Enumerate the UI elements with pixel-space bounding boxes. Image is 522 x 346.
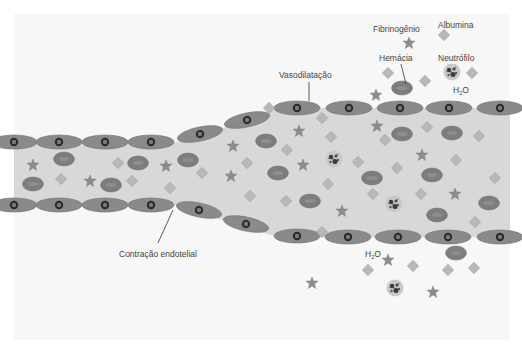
label-fibrinogen: Fibrinogênio [373,24,420,34]
vessel-diagram: Fibrinogênio Albumina Hemácia Neutrófilo… [0,0,522,346]
label-endothelial-contraction: Contração endotelial [119,249,197,259]
label-red-cell: Hemácia [379,53,413,63]
label-neutrophil: Neutrófilo [438,53,475,63]
diagram-canvas: Fibrinogênio Albumina Hemácia Neutrófilo… [0,0,522,346]
label-vasodilation: Vasodilatação [279,70,332,80]
label-albumin: Albumina [438,20,474,30]
contraction-pointer [158,210,173,243]
label-water-top: H2O [453,85,469,96]
label-water-bottom: H2O [365,249,381,260]
